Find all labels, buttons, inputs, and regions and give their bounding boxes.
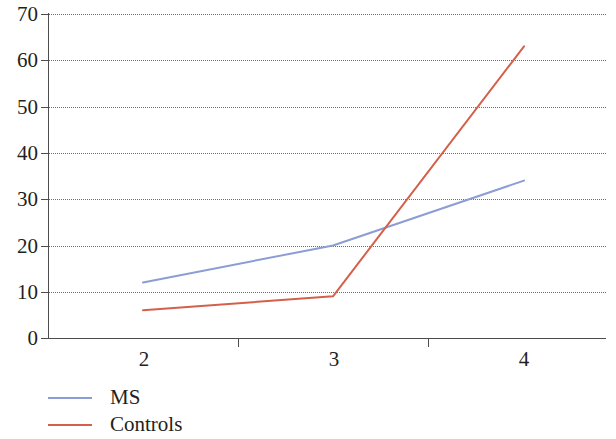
- y-tick-label-30: 30: [0, 189, 38, 210]
- y-tick-label-70: 70: [0, 4, 38, 25]
- legend: MS Controls: [48, 384, 348, 438]
- legend-item-controls: Controls: [48, 411, 348, 438]
- x-axis: [48, 338, 606, 339]
- y-tick-mark-10: [41, 292, 49, 293]
- y-tick-mark-20: [41, 246, 49, 247]
- x-tick-mark-4: [428, 339, 429, 347]
- plot-area: [49, 14, 606, 338]
- gridline-70: [49, 14, 606, 16]
- y-tick-label-10: 10: [0, 282, 38, 303]
- y-tick-label-60: 60: [0, 50, 38, 71]
- y-tick-mark-70: [41, 14, 49, 15]
- x-tick-label-3: 3: [304, 349, 364, 370]
- y-tick-label-40: 40: [0, 143, 38, 164]
- gridline-30: [49, 199, 606, 201]
- x-tick-label-2: 2: [114, 349, 174, 370]
- y-tick-mark-0: [41, 338, 49, 339]
- legend-swatch-controls: [48, 424, 92, 426]
- y-tick-mark-60: [41, 60, 49, 61]
- y-tick-label-20: 20: [0, 236, 38, 257]
- x-tick-mark-3: [238, 339, 239, 347]
- y-tick-mark-40: [41, 153, 49, 154]
- line-chart: 70 60 50 40 30 20 10 0 2 3 4 MS Controls: [0, 0, 616, 439]
- gridline-60: [49, 60, 606, 62]
- y-tick-label-50: 50: [0, 97, 38, 118]
- legend-label-controls: Controls: [110, 414, 182, 435]
- y-tick-mark-50: [41, 107, 49, 108]
- y-tick-mark-30: [41, 199, 49, 200]
- gridline-20: [49, 246, 606, 248]
- legend-swatch-ms: [48, 397, 92, 399]
- gridline-40: [49, 153, 606, 155]
- legend-label-ms: MS: [110, 387, 140, 408]
- x-tick-label-4: 4: [494, 349, 554, 370]
- gridline-50: [49, 107, 606, 109]
- y-axis: [48, 13, 49, 339]
- legend-item-ms: MS: [48, 384, 348, 411]
- y-tick-label-0: 0: [0, 328, 38, 349]
- gridline-10: [49, 292, 606, 294]
